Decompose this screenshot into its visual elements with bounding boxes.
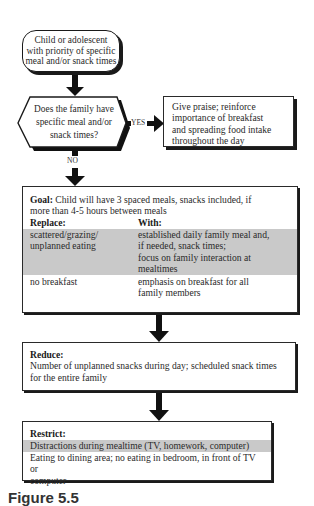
with-header: With:	[138, 217, 162, 229]
with-cell: established daily family meal and,	[138, 229, 269, 240]
arrow-down-icon	[66, 72, 84, 96]
praise-line: importance of breakfast	[172, 112, 293, 123]
decision-line: specific meal and/or	[28, 116, 120, 129]
with-cell: mealtimes	[138, 263, 269, 274]
figure-caption: Figure 5.5	[8, 489, 79, 506]
reduce-line: for the entire family	[30, 372, 288, 383]
praise-line: Give praise; reinforce	[172, 101, 293, 112]
yes-label: YES	[131, 118, 145, 127]
with-cell: if needed, snack times;	[138, 240, 269, 251]
reduce-node: Reduce: Number of unplanned snacks durin…	[22, 342, 296, 391]
goal-text: Child will have 3 spaced meals, snacks i…	[53, 194, 252, 205]
goal-text: more than 4-5 hours between meals	[30, 205, 290, 216]
with-cell: family members	[138, 287, 249, 298]
goal-row: no breakfast emphasis on breakfast for a…	[23, 275, 297, 299]
no-label: NO	[67, 156, 78, 165]
reduce-line: Number of unplanned snacks during day; s…	[30, 360, 288, 371]
reduce-heading: Reduce:	[30, 349, 64, 360]
start-line: with priority of specific	[26, 46, 117, 57]
decision-line: snack times?	[28, 129, 120, 142]
restrict-line: computer	[30, 475, 264, 486]
arrow-down-icon	[65, 148, 85, 186]
praise-line: throughout the day	[172, 135, 293, 146]
start-line: Child or adolescent	[26, 35, 117, 46]
restrict-shaded-line: Distractions during mealtime (TV, homewo…	[23, 440, 271, 451]
praise-node: Give praise; reinforce importance of bre…	[163, 96, 294, 147]
restrict-line: Eating to dining area; no eating in bedr…	[30, 452, 264, 475]
start-line: meal and/or snack times	[26, 56, 117, 67]
with-cell: emphasis on breakfast for all	[138, 276, 249, 287]
with-cell: focus on family interaction at	[138, 252, 269, 263]
replace-header: Replace:	[30, 217, 138, 229]
goal-node: Goal: Child will have 3 spaced meals, sn…	[22, 186, 298, 313]
goal-heading: Goal:	[30, 194, 53, 205]
start-node: Child or adolescent with priority of spe…	[22, 30, 120, 72]
decision-node: Does the family have specific meal and/o…	[28, 103, 120, 142]
arrow-down-icon	[149, 312, 169, 342]
restrict-heading: Restrict:	[30, 428, 66, 439]
goal-row: scattered/grazing/ unplanned eating esta…	[23, 229, 297, 275]
replace-cell: unplanned eating	[30, 240, 138, 251]
decision-line: Does the family have	[28, 103, 120, 116]
replace-cell: no breakfast	[30, 276, 138, 287]
praise-line: and spreading food intake	[172, 124, 293, 135]
arrow-down-icon	[149, 392, 169, 421]
restrict-node: Restrict: Distractions during mealtime (…	[22, 421, 272, 481]
replace-cell: scattered/grazing/	[30, 229, 138, 240]
